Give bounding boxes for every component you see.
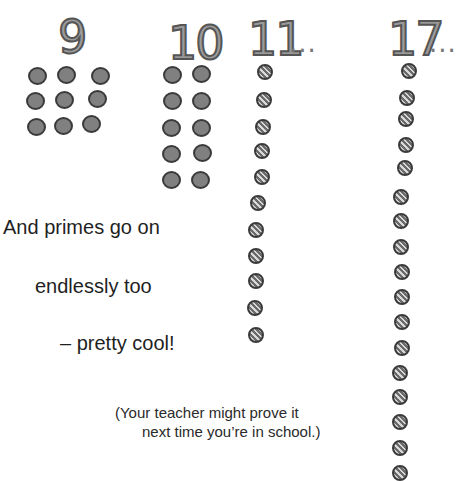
dot <box>162 171 181 189</box>
dot <box>392 365 408 381</box>
dot <box>392 440 408 456</box>
dot <box>394 314 410 330</box>
dot <box>26 92 45 110</box>
dot <box>392 465 408 481</box>
dot <box>397 160 413 176</box>
dot <box>401 63 417 79</box>
dot <box>192 92 211 110</box>
dot <box>254 169 270 185</box>
dot <box>192 65 211 83</box>
dot <box>191 171 210 189</box>
dot <box>82 115 101 133</box>
note-line-2: next time you’re in school.) <box>142 422 320 441</box>
dot <box>247 300 263 316</box>
dot <box>57 66 76 84</box>
dot <box>55 91 74 109</box>
dot <box>393 239 409 255</box>
numeral-10: 10 <box>168 20 223 66</box>
dot <box>255 119 271 135</box>
dot <box>54 117 73 135</box>
dot <box>257 64 273 80</box>
dot <box>394 340 410 356</box>
numeral-9: 9 <box>58 14 85 60</box>
dot <box>392 389 408 405</box>
dot <box>250 195 266 211</box>
dot <box>399 90 415 106</box>
dot <box>248 327 264 343</box>
dot <box>163 92 182 110</box>
dot <box>162 145 181 163</box>
dot <box>398 137 414 153</box>
dot <box>394 289 410 305</box>
dot <box>193 144 212 162</box>
dot <box>28 67 47 85</box>
dot <box>162 119 181 137</box>
dot <box>248 222 264 238</box>
dot <box>394 264 410 280</box>
ellipsis-11: ... <box>289 28 317 58</box>
note-line-1: (Your teacher might prove it <box>115 403 299 422</box>
dot <box>393 189 409 205</box>
dot <box>88 90 107 108</box>
caption-line-2: endlessly too <box>35 275 152 298</box>
dot <box>392 414 408 430</box>
dot <box>248 273 264 289</box>
dot <box>254 143 270 159</box>
dot <box>163 66 182 84</box>
dot <box>256 92 272 108</box>
dot <box>27 118 46 136</box>
dot <box>91 67 110 85</box>
dot <box>192 119 211 137</box>
caption-line-1: And primes go on <box>3 216 160 239</box>
dot <box>393 213 409 229</box>
dot <box>398 111 414 127</box>
ellipsis-17: ... <box>429 28 457 58</box>
dot <box>248 248 264 264</box>
caption-line-3: – pretty cool! <box>60 332 175 355</box>
